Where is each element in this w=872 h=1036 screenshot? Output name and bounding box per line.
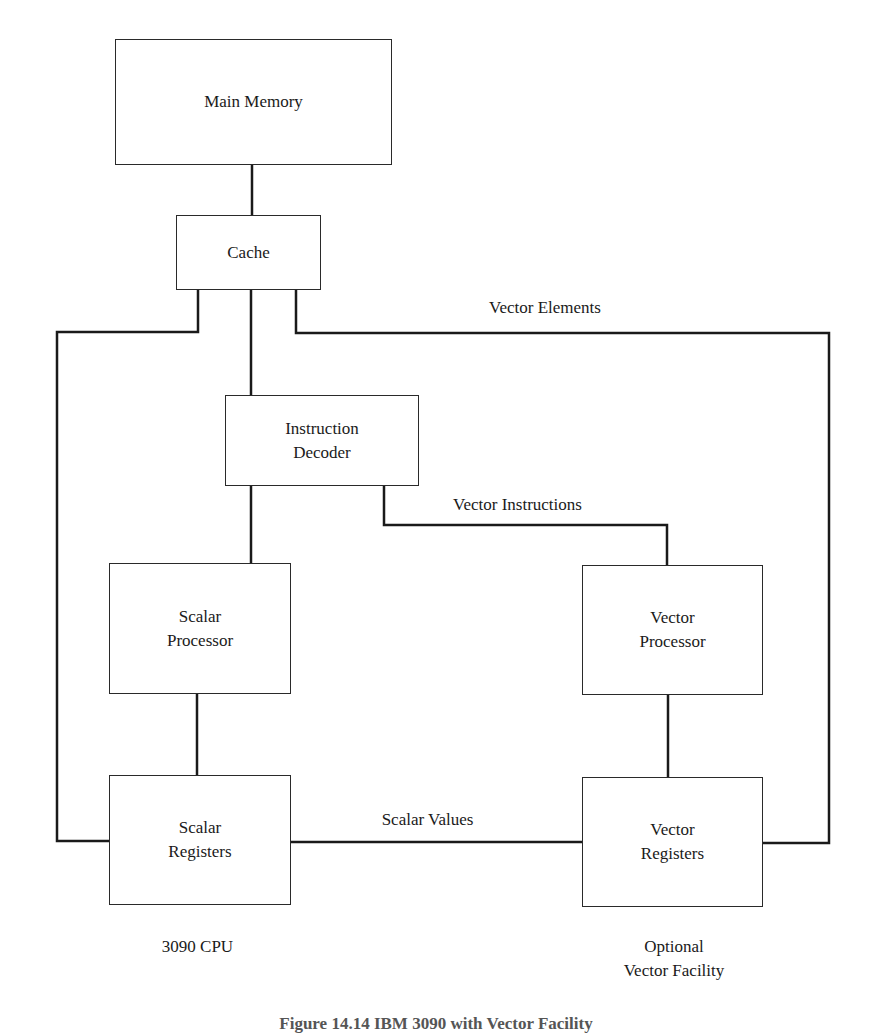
vector-registers-label: Vector Registers <box>641 818 704 866</box>
cache-box: Cache <box>176 215 321 290</box>
vector-facility-group-label: Optional Vector Facility <box>594 935 754 983</box>
cache-label: Cache <box>227 241 269 265</box>
figure-caption: Figure 14.14 IBM 3090 with Vector Facili… <box>0 1012 872 1036</box>
cpu-group-label: 3090 CPU <box>130 935 265 959</box>
scalar-registers-box: Scalar Registers <box>109 775 291 905</box>
vector-elements-label: Vector Elements <box>460 296 630 320</box>
vector-instructions-label: Vector Instructions <box>430 493 605 517</box>
vector-processor-label: Vector Processor <box>639 606 705 654</box>
scalar-processor-box: Scalar Processor <box>109 563 291 694</box>
scalar-registers-label: Scalar Registers <box>168 816 231 864</box>
vector-registers-box: Vector Registers <box>582 777 763 907</box>
scalar-values-label: Scalar Values <box>355 808 500 832</box>
vector-processor-box: Vector Processor <box>582 565 763 695</box>
main-memory-box: Main Memory <box>115 39 392 165</box>
main-memory-label: Main Memory <box>204 90 303 114</box>
instruction-decoder-box: Instruction Decoder <box>225 395 419 486</box>
scalar-processor-label: Scalar Processor <box>167 605 233 653</box>
instruction-decoder-label: Instruction Decoder <box>285 417 359 465</box>
